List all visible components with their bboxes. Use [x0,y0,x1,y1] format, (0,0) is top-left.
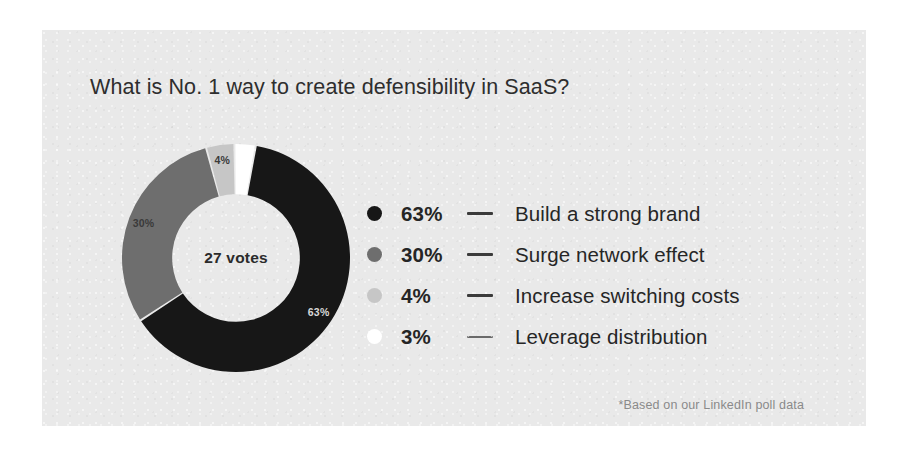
legend-row[interactable]: 30% Surge network effect [367,234,807,275]
page-title: What is No. 1 way to create defensibilit… [90,75,569,100]
donut-slice-label: 4% [214,154,230,166]
legend-percent: 63% [401,202,467,226]
legend-swatch-icon [367,329,382,344]
donut-slice-label: 30% [133,217,155,229]
legend-swatch-icon [367,206,382,221]
legend-label: Surge network effect [515,243,705,267]
donut-slice-label: 63% [308,306,330,318]
legend-percent: 4% [401,284,467,308]
poll-result-card: What is No. 1 way to create defensibilit… [42,30,866,426]
chart-legend: 63% Build a strong brand 30% Surge netwo… [367,193,807,357]
legend-label: Build a strong brand [515,202,700,226]
legend-percent: 3% [401,325,467,349]
legend-dash-icon [467,212,501,214]
legend-dash-icon [467,294,501,296]
legend-swatch-icon [367,247,382,262]
legend-label: Increase switching costs [515,284,740,308]
donut-slice[interactable] [122,148,219,319]
donut-chart-svg: 63%30%4% [120,142,352,374]
legend-label: Leverage distribution [515,325,707,349]
donut-chart: 63%30%4% 27 votes [120,142,352,374]
source-footnote: *Based on our LinkedIn poll data [619,398,805,412]
legend-swatch-icon [367,288,382,303]
legend-dash-icon [467,336,501,338]
legend-row[interactable]: 4% Increase switching costs [367,275,807,316]
legend-row[interactable]: 63% Build a strong brand [367,193,807,234]
poster-canvas: What is No. 1 way to create defensibilit… [0,0,909,460]
legend-row[interactable]: 3% Leverage distribution [367,316,807,357]
legend-dash-icon [467,253,501,255]
donut-slices [122,144,350,372]
legend-percent: 30% [401,243,467,267]
